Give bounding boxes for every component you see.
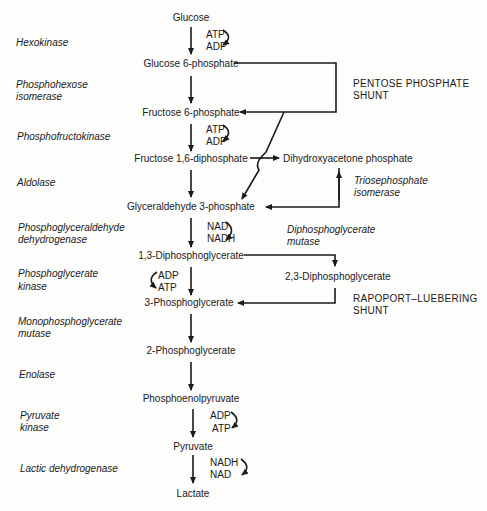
metabolite-dihydroxyacetone-phosphate: Dihydroxyacetone phosphate: [283, 153, 413, 165]
enzyme-phosphoglycerate-kinase-line1: Phosphoglycerate: [18, 268, 98, 280]
enzyme-phosphohexose-isomerase-line1: Phosphohexose: [16, 79, 88, 91]
cofactor-pgk-in: ADP: [158, 270, 179, 281]
cofactor-pfk-out: ADP: [206, 136, 227, 147]
cofactor-pk-out: ATP: [212, 423, 231, 434]
arrow-tpi-g3p: [266, 168, 339, 207]
metabolite-phosphoenolpyruvate: Phosphoenolpyruvate: [143, 393, 240, 405]
enzyme-diphosphoglycerate-mutase-line1: Diphosphoglycerate: [287, 224, 375, 236]
enzyme-phosphofructokinase: Phosphofructokinase: [17, 131, 110, 143]
cofactor-gapdh-out: NADH: [207, 233, 235, 244]
metabolite-2-phosphoglycerate: 2-Phosphoglycerate: [147, 345, 236, 357]
enzyme-diphosphoglycerate-mutase-line2: mutase: [287, 236, 320, 248]
cofactor-hk-out: ADP: [206, 41, 227, 52]
enzyme-monophosphoglycerate-mutase-line2: mutase: [18, 328, 51, 340]
arrow-bpg13-bpg23: [244, 255, 335, 266]
metabolite-fructose-1-6-diphosphate: Fructose 1,6-diphosphate: [134, 153, 247, 165]
enzyme-monophosphoglycerate-mutase-line1: Monophosphoglycerate: [18, 316, 122, 328]
enzyme-aldolase: Aldolase: [17, 177, 55, 189]
shunt-label-pentose-line1: PENTOSE PHOSPHATE: [353, 78, 469, 90]
enzyme-lactic-dehydrogenase: Lactic dehydrogenase: [20, 463, 118, 475]
metabolite-glucose-6-phosphate: Glucose 6-phosphate: [143, 58, 238, 70]
metabolite-1-3-diphosphoglycerate: 1,3-Diphosphoglycerate: [138, 250, 244, 262]
enzyme-triosephosphate-isomerase-line2: isomerase: [354, 187, 400, 199]
metabolite-glyceraldehyde-3-phosphate: Glyceraldehyde 3-phosphate: [127, 201, 255, 213]
arrow-pentose-shunt-g3p: [242, 112, 284, 199]
enzyme-triosephosphate-isomerase-line1: Triosephosphate: [354, 175, 428, 187]
shunt-label-rapoport-line1: RAPOPORT–LUEBERING: [353, 293, 478, 305]
enzyme-pyruvate-kinase-line1: Pyruvate: [20, 410, 59, 422]
enzyme-gapdh-line2: dehydrogenase: [18, 234, 87, 246]
metabolite-3-phosphoglycerate: 3-Phosphoglycerate: [145, 297, 234, 309]
metabolite-fructose-6-phosphate: Fructose 6-phosphate: [142, 107, 239, 119]
enzyme-phosphohexose-isomerase-line2: isomerase: [16, 91, 62, 103]
cofactor-ldh-in: NADH: [210, 457, 238, 468]
shunt-label-pentose-line2: SHUNT: [353, 90, 389, 102]
curve-pgk-cofactor: [151, 272, 157, 288]
cofactor-pfk-in: ATP: [206, 124, 225, 135]
enzyme-hexokinase: Hexokinase: [16, 37, 68, 49]
cofactor-pk-in: ADP: [210, 410, 231, 421]
metabolite-pyruvate: Pyruvate: [173, 441, 212, 453]
metabolite-lactate: Lactate: [177, 488, 210, 500]
curve-ldh-cofactor: [241, 459, 247, 475]
cofactor-hk-in: ATP: [206, 29, 225, 40]
enzyme-gapdh-line1: Phosphoglyceraldehyde: [18, 222, 125, 234]
arrow-pentose-shunt-f6p: [234, 63, 336, 112]
cofactor-ldh-out: NAD: [210, 469, 231, 480]
cofactor-gapdh-in: NAD: [207, 221, 228, 232]
enzyme-enolase: Enolase: [19, 369, 55, 381]
curve-pk-cofactor: [231, 412, 237, 428]
metabolite-glucose: Glucose: [173, 12, 210, 24]
arrow-bpg23-pg3: [238, 288, 335, 303]
enzyme-pyruvate-kinase-line2: kinase: [20, 422, 49, 434]
shunt-label-rapoport-line2: SHUNT: [353, 305, 389, 317]
metabolite-2-3-diphosphoglycerate: 2,3-Diphosphoglycerate: [285, 271, 391, 283]
cofactor-pgk-out: ATP: [158, 282, 177, 293]
enzyme-phosphoglycerate-kinase-line2: kinase: [18, 281, 47, 293]
